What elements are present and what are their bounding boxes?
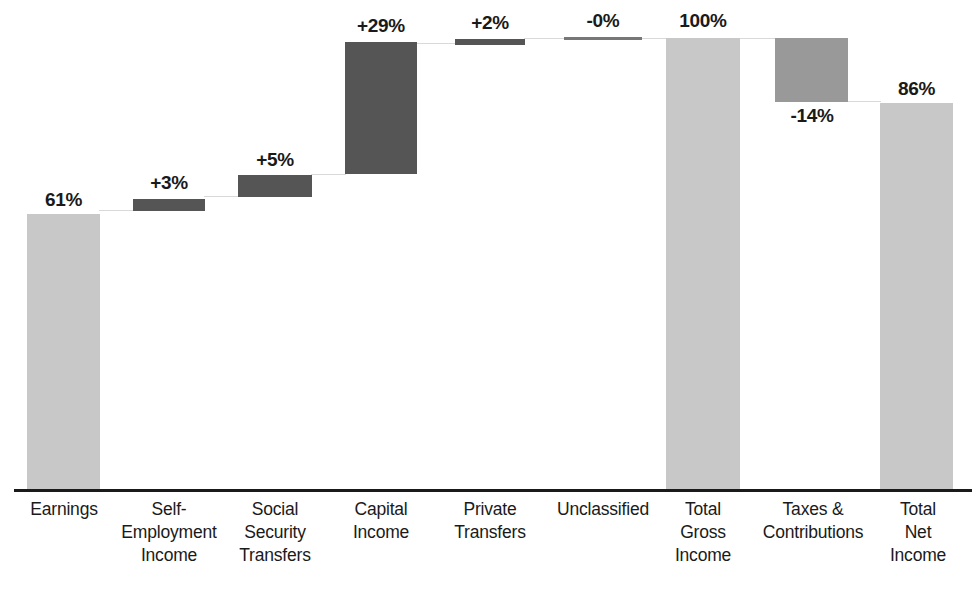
value-label-private-transfers: +2%: [452, 12, 528, 34]
value-label-capital-income: +29%: [341, 15, 421, 37]
value-label-total-gross-income: 100%: [663, 10, 743, 32]
connector-line: [204, 196, 239, 197]
category-label-line: Employment: [104, 521, 234, 544]
category-label-total-gross-income: Total Gross Income: [659, 498, 747, 567]
category-label-line: Income: [874, 544, 962, 567]
category-label-unclassified: Unclassified: [533, 498, 673, 521]
category-label-line: Income: [329, 521, 433, 544]
category-label-line: Transfers: [222, 544, 328, 567]
bar-earnings[interactable]: [27, 214, 100, 490]
category-label-line: Capital: [329, 498, 433, 521]
connector-line: [311, 174, 346, 175]
bar-self-employment-income[interactable]: [133, 199, 205, 211]
category-label-self-employment-income: Self- Employment Income: [104, 498, 234, 567]
category-label-line: Gross: [659, 521, 747, 544]
bar-capital-income[interactable]: [345, 42, 417, 174]
category-label-line: Total: [874, 498, 962, 521]
category-label-line: Private: [438, 498, 542, 521]
category-label-line: Social: [222, 498, 328, 521]
value-label-unclassified: -0%: [564, 10, 642, 32]
value-label-social-security-transfers: +5%: [238, 149, 312, 171]
connector-line: [524, 38, 564, 39]
category-label-line: Total: [659, 498, 747, 521]
category-label-social-security-transfers: Social Security Transfers: [222, 498, 328, 567]
bar-total-gross-income[interactable]: [666, 38, 740, 490]
category-label-private-transfers: Private Transfers: [438, 498, 542, 544]
category-label-line: Net: [874, 521, 962, 544]
category-label-line: Taxes &: [748, 498, 878, 521]
value-label-earnings: 61%: [27, 189, 100, 211]
category-label-taxes-and-contributions: Taxes & Contributions: [748, 498, 878, 544]
category-label-line: Unclassified: [533, 498, 673, 521]
bar-total-net-income[interactable]: [880, 103, 953, 490]
category-axis-labels: Earnings Self- Employment Income Social …: [0, 498, 978, 601]
waterfall-chart: 61% +3% +5% +29% +2% -0% 100% -14% 86% E…: [0, 0, 978, 601]
category-label-line: Contributions: [748, 521, 878, 544]
bar-unclassified[interactable]: [564, 37, 642, 40]
plot-area: 61% +3% +5% +29% +2% -0% 100% -14% 86%: [0, 0, 978, 492]
value-label-self-employment-income: +3%: [133, 172, 205, 194]
connector-line: [847, 101, 881, 102]
value-label-taxes-and-contributions: -14%: [773, 105, 851, 127]
value-label-total-net-income: 86%: [879, 78, 954, 100]
category-label-line: Security: [222, 521, 328, 544]
category-label-line: Income: [104, 544, 234, 567]
category-label-line: Transfers: [438, 521, 542, 544]
category-label-total-net-income: Total Net Income: [874, 498, 962, 567]
connector-line: [739, 38, 776, 39]
connector-line: [99, 210, 134, 211]
connector-line: [416, 43, 456, 44]
category-label-capital-income: Capital Income: [329, 498, 433, 544]
category-label-line: Self-: [104, 498, 234, 521]
x-axis-line: [14, 489, 972, 492]
connector-line: [641, 38, 667, 39]
bar-social-security-transfers[interactable]: [238, 175, 312, 197]
bar-private-transfers[interactable]: [455, 39, 525, 45]
category-label-line: Income: [659, 544, 747, 567]
bar-taxes-and-contributions[interactable]: [775, 38, 848, 102]
